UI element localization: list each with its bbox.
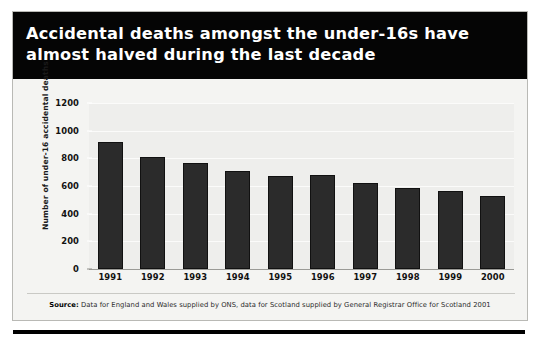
page-title: Accidental deaths amongst the under-16s … <box>26 23 511 65</box>
source-divider <box>27 293 515 294</box>
gridline-0 <box>89 269 514 270</box>
bar-slot <box>259 103 302 269</box>
y-tick-label: 400 <box>61 209 79 219</box>
bar-1996[interactable] <box>310 175 335 269</box>
bar-slot <box>174 103 217 269</box>
bar-1999[interactable] <box>438 191 463 269</box>
bar-series <box>89 103 514 269</box>
source-text: Data for England and Wales supplied by O… <box>79 301 491 309</box>
bar-slot <box>472 103 515 269</box>
chart-body: Number of under-16 accidental deaths 020… <box>13 79 527 321</box>
x-tick-label-1991: 1991 <box>89 272 132 282</box>
title-banner: Accidental deaths amongst the under-16s … <box>13 12 527 79</box>
bottom-rule <box>13 330 525 334</box>
y-tick-mark <box>87 213 92 214</box>
y-tick-label: 800 <box>61 153 79 163</box>
bar-1991[interactable] <box>98 142 123 269</box>
x-tick-label-1997: 1997 <box>344 272 387 282</box>
bar-1995[interactable] <box>268 176 293 269</box>
plot-area <box>89 103 514 269</box>
bar-1993[interactable] <box>183 163 208 269</box>
bar-slot <box>387 103 430 269</box>
y-tick-mark <box>87 269 92 270</box>
source-label: Source: <box>49 301 78 309</box>
bar-1994[interactable] <box>225 171 250 269</box>
y-tick-label: 1000 <box>55 126 79 136</box>
bar-slot <box>217 103 260 269</box>
x-axis-tick-labels: 1991199219931994199519961997199819992000 <box>89 272 514 282</box>
bar-slot <box>132 103 175 269</box>
bar-1998[interactable] <box>395 188 420 269</box>
x-tick-label-2000: 2000 <box>472 272 515 282</box>
x-tick-label-1993: 1993 <box>174 272 217 282</box>
y-tick-label: 200 <box>61 236 79 246</box>
y-tick-label: 600 <box>61 181 79 191</box>
x-tick-label-1992: 1992 <box>132 272 175 282</box>
chart-page: Accidental deaths amongst the under-16s … <box>0 0 550 340</box>
y-tick-mark <box>87 158 92 159</box>
y-tick-mark <box>87 186 92 187</box>
x-tick-label-1999: 1999 <box>429 272 472 282</box>
x-tick-label-1995: 1995 <box>259 272 302 282</box>
chart-card: Accidental deaths amongst the under-16s … <box>12 11 528 321</box>
y-tick-mark <box>87 130 92 131</box>
x-tick-label-1996: 1996 <box>302 272 345 282</box>
source-note: Source: Data for England and Wales suppl… <box>13 301 527 309</box>
bar-2000[interactable] <box>480 196 505 269</box>
bar-1992[interactable] <box>140 157 165 269</box>
bar-slot <box>302 103 345 269</box>
y-axis-tick-labels: 020040060080010001200 <box>39 103 85 269</box>
y-tick-label: 0 <box>73 264 79 274</box>
bar-1997[interactable] <box>353 183 378 269</box>
bar-slot <box>429 103 472 269</box>
x-tick-label-1998: 1998 <box>387 272 430 282</box>
bar-slot <box>344 103 387 269</box>
x-tick-label-1994: 1994 <box>217 272 260 282</box>
y-tick-label: 1200 <box>55 98 79 108</box>
bar-slot <box>89 103 132 269</box>
y-tick-mark <box>87 103 92 104</box>
y-tick-mark <box>87 241 92 242</box>
